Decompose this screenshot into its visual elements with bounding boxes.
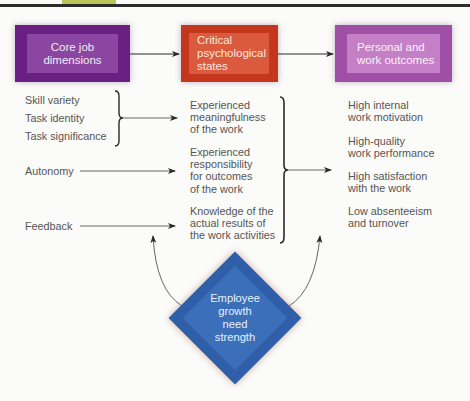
core-job-dimensions-box: Core jobdimensions bbox=[15, 25, 130, 82]
critical-psychological-states-box: Criticalpsychologicalstates bbox=[181, 25, 278, 82]
state-knowledge-of-results: Knowledge of the actual results of the w… bbox=[190, 205, 275, 242]
growth-need-strength-label: Employee growth need strength bbox=[168, 251, 302, 385]
state-responsibility: Experienced responsibility for outcomes … bbox=[190, 146, 252, 195]
critical-psychological-states-label: Criticalpsychologicalstates bbox=[181, 25, 278, 82]
outcome-motivation: High internal work motivation bbox=[348, 99, 423, 123]
outcome-absenteeism-turnover: Low absenteeism and turnover bbox=[348, 205, 432, 229]
state-meaningfulness: Experienced meaningfulness of the work bbox=[190, 99, 266, 136]
outcome-performance: High-quality work performance bbox=[348, 135, 434, 159]
personal-work-outcomes-box: Personal andwork outcomes bbox=[335, 25, 452, 82]
dimension-skill-variety: Skill variety bbox=[25, 94, 80, 106]
core-job-dimensions-label: Core jobdimensions bbox=[15, 25, 130, 82]
dimension-task-significance: Task significance bbox=[25, 130, 107, 142]
dimension-task-identity: Task identity bbox=[25, 112, 84, 124]
dimension-feedback: Feedback bbox=[25, 220, 72, 232]
personal-work-outcomes-label: Personal andwork outcomes bbox=[335, 25, 452, 82]
outcome-satisfaction: High satisfaction with the work bbox=[348, 170, 427, 194]
growth-need-strength-diamond: Employee growth need strength bbox=[168, 251, 302, 385]
dimension-autonomy: Autonomy bbox=[25, 165, 74, 177]
